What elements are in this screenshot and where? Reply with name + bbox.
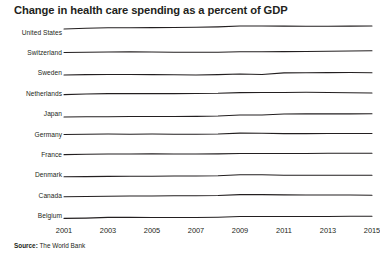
x-axis-tick: 2005 bbox=[144, 226, 160, 235]
sparkline-plot bbox=[64, 83, 372, 103]
sparkline-row: Belgium bbox=[0, 206, 379, 226]
sparkline-plot bbox=[64, 165, 372, 185]
sparkline-row: France bbox=[0, 144, 379, 164]
sparkline-row: Denmark bbox=[0, 165, 379, 185]
sparkline-row-label: France bbox=[0, 144, 62, 164]
sparkline-plot bbox=[64, 144, 372, 164]
spark-path bbox=[64, 174, 372, 176]
x-axis-tick: 2013 bbox=[320, 226, 336, 235]
source-text: The World Bank bbox=[38, 242, 85, 249]
sparkline-plot bbox=[64, 42, 372, 62]
sparkline-plot bbox=[64, 104, 372, 124]
spark-path bbox=[64, 195, 372, 197]
sparkline-plot bbox=[64, 63, 372, 83]
spark-path bbox=[64, 216, 372, 218]
sparkline-row: Sweden bbox=[0, 63, 379, 83]
spark-path bbox=[64, 26, 372, 29]
spark-path bbox=[64, 113, 372, 116]
x-axis-tick: 2009 bbox=[232, 226, 248, 235]
x-axis-tick: 2015 bbox=[364, 226, 380, 235]
x-axis-tick: 2003 bbox=[100, 226, 116, 235]
spark-path bbox=[64, 93, 372, 95]
x-axis: 20012003200520072009201120132015 bbox=[64, 226, 372, 238]
spark-path bbox=[64, 51, 372, 53]
x-axis-tick: 2011 bbox=[276, 226, 292, 235]
sparkline-plot bbox=[64, 185, 372, 205]
sparkline-row-label: Denmark bbox=[0, 165, 62, 185]
source-label: Source: bbox=[14, 242, 38, 249]
spark-path bbox=[64, 154, 372, 155]
sparkline-row: Switzerland bbox=[0, 42, 379, 62]
sparkline-panels: United StatesSwitzerlandSwedenNetherland… bbox=[0, 22, 379, 226]
sparkline-plot bbox=[64, 206, 372, 226]
sparkline-row-label: Belgium bbox=[0, 206, 62, 226]
sparkline-row-label: Switzerland bbox=[0, 42, 62, 62]
sparkline-row-label: Germany bbox=[0, 124, 62, 144]
sparkline-row: United States bbox=[0, 22, 379, 42]
sparkline-row: Germany bbox=[0, 124, 379, 144]
sparkline-row: Canada bbox=[0, 185, 379, 205]
sparkline-row: Japan bbox=[0, 104, 379, 124]
source-note: Source: The World Bank bbox=[14, 242, 85, 249]
sparkline-row: Netherlands bbox=[0, 83, 379, 103]
sparkline-plot bbox=[64, 22, 372, 42]
sparkline-row-label: Japan bbox=[0, 104, 62, 124]
sparkline-row-label: Netherlands bbox=[0, 83, 62, 103]
page-title: Change in health care spending as a perc… bbox=[14, 4, 288, 16]
sparkline-row-label: Canada bbox=[0, 185, 62, 205]
spark-path bbox=[64, 72, 372, 74]
x-axis-tick: 2001 bbox=[56, 226, 72, 235]
x-axis-tick: 2007 bbox=[188, 226, 204, 235]
spark-path bbox=[64, 133, 372, 134]
sparkline-row-label: Sweden bbox=[0, 63, 62, 83]
sparkline-plot bbox=[64, 124, 372, 144]
sparkline-row-label: United States bbox=[0, 22, 62, 42]
